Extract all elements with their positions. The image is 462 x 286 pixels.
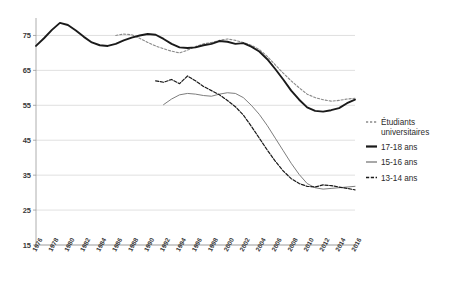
line-chart: 15253545556575 1976197819801982198419861… xyxy=(0,0,462,286)
x-axis-tick-label: 1980 xyxy=(63,236,76,252)
y-axis-tick-labels: 15253545556575 xyxy=(23,31,31,250)
legend-label-3[interactable]: 13-14 ans xyxy=(381,174,417,183)
y-axis-tick-label: 45 xyxy=(23,136,31,145)
legend-label-0-line2[interactable]: universitaires xyxy=(381,128,429,137)
x-axis-tick-label: 2000 xyxy=(222,236,235,252)
axis-lines xyxy=(33,18,355,248)
x-axis-tick-label: 1982 xyxy=(79,236,92,252)
x-axis-tick-label: 1992 xyxy=(158,236,171,252)
x-axis-tick-label: 1976 xyxy=(31,236,44,252)
legend-label-0[interactable]: Étudiants xyxy=(381,117,415,127)
x-axis-tick-labels: 1976197819801982198419861988199019921994… xyxy=(31,236,363,252)
x-axis-tick-label: 1978 xyxy=(47,236,60,252)
x-axis-tick-label: 1996 xyxy=(190,236,203,252)
y-axis-tick-label: 75 xyxy=(23,31,31,40)
legend-label-1[interactable]: 17-18 ans xyxy=(381,143,417,152)
x-axis-tick-label: 1986 xyxy=(110,236,123,252)
chart-container: 15253545556575 1976197819801982198419861… xyxy=(0,0,462,286)
y-axis-tick-label: 15 xyxy=(23,241,31,250)
legend-label-2[interactable]: 15-16 ans xyxy=(381,158,417,167)
x-axis-tick-label: 1994 xyxy=(174,236,187,252)
y-axis-tick-label: 35 xyxy=(23,171,31,180)
x-axis-tick-label: 2002 xyxy=(238,236,251,252)
x-axis-tick-label: 2014 xyxy=(334,236,347,252)
x-axis-tick-label: 1988 xyxy=(126,236,139,252)
y-axis-tick-label: 65 xyxy=(23,66,31,75)
series-line-3 xyxy=(156,76,355,190)
x-axis-tick-label: 2006 xyxy=(270,236,283,252)
x-axis-tick-label: 1998 xyxy=(206,236,219,252)
series-line-2 xyxy=(164,93,355,189)
y-axis-tick-label: 25 xyxy=(23,206,31,215)
x-axis-tick-label: 2008 xyxy=(286,236,299,252)
gridlines xyxy=(36,35,355,245)
x-axis-tick-label: 2016 xyxy=(350,236,363,252)
data-series-group xyxy=(36,23,355,190)
x-axis-tick-label: 1990 xyxy=(142,236,155,252)
x-axis-tick-label: 2012 xyxy=(318,236,331,252)
chart-legend: Étudiantsuniversitaires17-18 ans15-16 an… xyxy=(366,117,429,183)
y-axis-tick-label: 55 xyxy=(23,101,31,110)
x-axis-tick-label: 2004 xyxy=(254,236,267,252)
x-axis-tick-label: 2010 xyxy=(302,236,315,252)
x-axis-tick-label: 1984 xyxy=(95,236,108,252)
series-line-1 xyxy=(36,23,355,112)
